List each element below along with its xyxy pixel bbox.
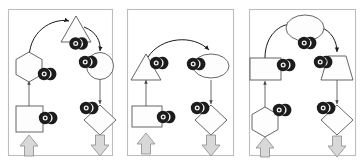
output-block-arrow[interactable] <box>202 135 220 156</box>
gear-badge-icon[interactable] <box>277 59 296 71</box>
gear-badge-icon[interactable] <box>191 102 210 114</box>
output-block-arrow[interactable] <box>91 135 109 156</box>
panel-frame <box>9 10 113 156</box>
gear-badge-icon[interactable] <box>79 56 98 68</box>
input-block-arrow[interactable] <box>137 133 155 154</box>
input-block-arrow[interactable] <box>256 137 274 157</box>
rectangle-node[interactable] <box>250 58 281 80</box>
gear-badge-icon[interactable] <box>317 102 336 114</box>
output-block-arrow[interactable] <box>328 136 346 157</box>
gear-badge-icon[interactable] <box>187 58 206 70</box>
edge-triangle-to-ellipse <box>148 40 209 57</box>
gear-badge-icon[interactable] <box>69 37 88 49</box>
gear-badge-icon[interactable] <box>298 37 317 49</box>
gear-badge-icon[interactable] <box>314 56 333 68</box>
panel-1 <box>0 0 121 165</box>
gear-badge-icon[interactable] <box>38 68 57 80</box>
input-block-arrow[interactable] <box>20 135 38 156</box>
gear-badge-icon[interactable] <box>150 57 169 69</box>
gear-badge-icon[interactable] <box>39 112 58 124</box>
panel-frame <box>128 10 234 156</box>
gear-badge-icon[interactable] <box>157 111 176 123</box>
panel-2 <box>121 0 242 165</box>
hexagon-node[interactable] <box>16 52 42 82</box>
gear-badge-icon[interactable] <box>273 104 292 116</box>
diagram-figure <box>0 0 364 165</box>
panel-3 <box>242 0 363 165</box>
gear-badge-icon[interactable] <box>80 102 99 114</box>
